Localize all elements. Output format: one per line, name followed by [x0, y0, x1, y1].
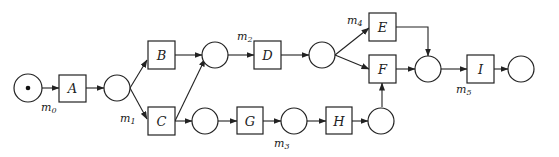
transition-i-label: I: [477, 62, 484, 77]
transition-d-label: D: [261, 48, 273, 63]
marking-label-m4: m4: [347, 14, 363, 28]
transition-i: I: [467, 55, 494, 83]
marking-label-m5: m5: [456, 83, 472, 97]
place-p5: [415, 56, 441, 82]
place-p6: [281, 108, 307, 134]
transition-e: E: [369, 13, 396, 41]
place-p3: [309, 42, 335, 68]
marking-label-m2: m2: [237, 30, 253, 44]
transition-e-label: E: [377, 20, 388, 35]
transition-a: A: [59, 75, 86, 102]
transition-g-label: G: [245, 114, 255, 129]
transition-a-label: A: [67, 81, 77, 96]
transition-g: G: [237, 107, 263, 134]
marking-label-m0: m0: [41, 101, 57, 115]
marking-label-m1: m1: [120, 112, 136, 126]
place-p1: [104, 75, 130, 101]
transition-c: C: [148, 107, 175, 135]
transition-c-label: C: [157, 114, 167, 129]
marking-label-m3: m3: [274, 137, 290, 151]
transition-b-label: B: [156, 48, 167, 63]
place-p4: [192, 108, 218, 134]
petri-net-diagram: A B C D E F G H I m0 m1 m2 m3 m4 m5: [0, 0, 559, 157]
place-end: [508, 56, 534, 82]
transition-f: F: [369, 55, 396, 83]
place-p2: [202, 42, 228, 68]
transition-h-label: H: [332, 114, 345, 129]
transition-f-label: F: [377, 62, 388, 77]
transition-b: B: [148, 41, 175, 69]
place-p0: [14, 74, 42, 102]
place-p7: [368, 108, 394, 134]
transition-h: H: [326, 107, 352, 134]
token-icon: [26, 86, 31, 91]
transition-d: D: [254, 41, 281, 69]
